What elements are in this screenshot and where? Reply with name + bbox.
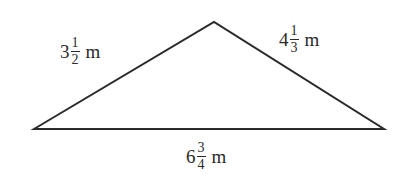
left-side-fraction: 1 2 [71,36,80,67]
right-side-numerator: 1 [290,24,299,38]
base-label: 6 3 4 m [186,141,226,172]
left-side-unit: m [86,41,101,63]
left-side-whole: 3 [60,41,70,63]
base-whole: 6 [186,146,196,168]
right-side-unit: m [305,29,320,51]
left-side-denominator: 2 [71,53,80,67]
right-side-whole: 4 [279,29,289,51]
left-side-numerator: 1 [71,36,80,50]
base-denominator: 4 [197,158,206,172]
left-side-label: 3 1 2 m [60,36,100,67]
base-unit: m [212,146,227,168]
right-side-denominator: 3 [290,41,299,55]
base-fraction: 3 4 [197,141,206,172]
base-numerator: 3 [197,141,206,155]
right-side-fraction: 1 3 [290,24,299,55]
right-side-label: 4 1 3 m [279,24,319,55]
